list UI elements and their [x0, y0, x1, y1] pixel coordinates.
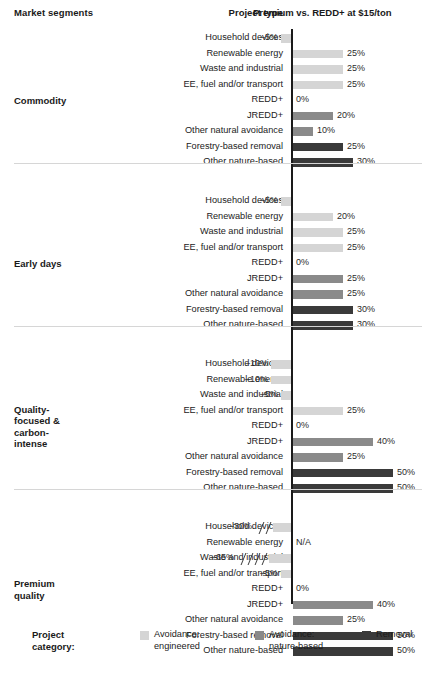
- bar-positive: [293, 213, 333, 222]
- legend-label-line1: Removal: [376, 629, 412, 641]
- bar-positive: [293, 453, 343, 462]
- chart-row: Forestry-based removal25%: [0, 140, 435, 156]
- bar-container: 25%: [291, 404, 435, 420]
- chart-row: EE, fuel and/or transport25%: [0, 404, 435, 420]
- project-type-label: Other natural avoidance: [120, 451, 283, 461]
- bar-container: 20%: [291, 210, 435, 226]
- legend-label: Removal: [376, 629, 412, 641]
- legend-title-line1: Project: [32, 629, 75, 641]
- market-segment-section: Early daysHousehold devices–5%Renewable …: [0, 194, 435, 334]
- chart-row: Other natural avoidance25%: [0, 287, 435, 303]
- project-type-label: Forestry-based removal: [120, 141, 283, 151]
- market-segment-section: Quality-focused &carbon-intenseHousehold…: [0, 357, 435, 497]
- bar-positive: [293, 143, 343, 152]
- project-type-label: Other nature-based: [120, 482, 283, 492]
- bar-negative: [281, 197, 291, 206]
- value-label: 25%: [347, 48, 365, 58]
- bar-positive: [293, 244, 343, 253]
- project-type-label: JREDD+: [120, 110, 283, 120]
- bar-negative: [281, 570, 291, 579]
- legend-title: Project category:: [32, 629, 75, 652]
- chart-row: Household devices–5%: [0, 194, 435, 210]
- chart-row: EE, fuel and/or transport–5%: [0, 567, 435, 583]
- axis-break-slash: [259, 522, 264, 534]
- bar-container: 25%: [291, 272, 435, 288]
- header-premium: Premium vs. REDD+ at $15/ton: [253, 7, 392, 18]
- value-label: 20%: [337, 211, 355, 221]
- project-type-label: EE, fuel and/or transport: [120, 405, 283, 415]
- project-type-label: Renewable energy: [120, 211, 283, 221]
- value-label: 50%: [397, 482, 415, 492]
- value-label: –5%: [120, 195, 278, 205]
- project-type-label: Other natural avoidance: [120, 614, 283, 624]
- bar-positive: [293, 228, 343, 237]
- value-label: 25%: [347, 79, 365, 89]
- value-label: –5%: [120, 32, 278, 42]
- value-label: –10%: [120, 358, 268, 368]
- bar-container: 25%: [291, 78, 435, 94]
- premium-vs-redd-chart: Market segments Project type Premium vs.…: [0, 0, 435, 678]
- value-label: 30%: [357, 304, 375, 314]
- value-label: 10%: [317, 125, 335, 135]
- project-type-label: REDD+: [120, 420, 283, 430]
- project-type-label: EE, fuel and/or transport: [120, 242, 283, 252]
- section-divider: [14, 326, 422, 327]
- chart-row: Household devices–30%: [0, 520, 435, 536]
- project-type-label: Other natural avoidance: [120, 288, 283, 298]
- legend-label-line1: Avoidance:: [269, 629, 323, 641]
- legend-label-line1: Avoidance:: [154, 629, 200, 641]
- bar-container: 40%: [291, 598, 435, 614]
- bar-container: 25%: [291, 47, 435, 63]
- project-type-label: REDD+: [120, 583, 283, 593]
- bar-positive: [293, 290, 343, 299]
- chart-row: REDD+0%: [0, 256, 435, 272]
- value-label: –5%: [120, 568, 278, 578]
- value-label: 25%: [347, 405, 365, 415]
- project-type-label: Other nature-based: [120, 319, 283, 329]
- value-label: 25%: [347, 451, 365, 461]
- axis-break-slash: [266, 522, 271, 534]
- project-type-label: Other natural avoidance: [120, 125, 283, 135]
- bar-container: 10%: [291, 124, 435, 140]
- value-label-zero: 0%: [296, 257, 309, 267]
- value-label: 25%: [347, 141, 365, 151]
- value-label-zero: 0%: [296, 583, 309, 593]
- chart-row: Waste and industrial25%: [0, 225, 435, 241]
- bar-negative: [281, 391, 291, 400]
- chart-row: Waste and industrial–5%: [0, 388, 435, 404]
- value-label: –10%: [120, 374, 268, 384]
- legend: Project category: Avoidance:engineeredAv…: [0, 625, 435, 665]
- chart-row: Renewable energy20%: [0, 210, 435, 226]
- legend-swatch: [362, 631, 371, 640]
- chart-row: Other natural avoidance10%: [0, 124, 435, 140]
- value-label: 30%: [357, 319, 375, 329]
- bar-container: 50%: [291, 466, 435, 482]
- project-type-label: EE, fuel and/or transport: [120, 79, 283, 89]
- bar-positive: [293, 127, 313, 136]
- value-label: 50%: [397, 467, 415, 477]
- bar-positive: [293, 438, 373, 447]
- legend-title-line2: category:: [32, 641, 75, 653]
- project-type-label: Forestry-based removal: [120, 467, 283, 477]
- bar-positive: [293, 407, 343, 416]
- project-type-label: JREDD+: [120, 599, 283, 609]
- chart-row: REDD+0%: [0, 93, 435, 109]
- chart-row: Renewable energyN/A: [0, 536, 435, 552]
- bar-positive: [293, 469, 393, 478]
- chart-row: Forestry-based removal50%: [0, 466, 435, 482]
- chart-row: Other natural avoidance25%: [0, 450, 435, 466]
- project-type-label: Forestry-based removal: [120, 304, 283, 314]
- bar-positive: [293, 616, 343, 625]
- bar-positive: [293, 601, 373, 610]
- chart-row: Waste and industrial25%: [0, 62, 435, 78]
- project-type-label: REDD+: [120, 257, 283, 267]
- value-label: 40%: [377, 436, 395, 446]
- bar-negative: [269, 554, 291, 563]
- project-type-label: Renewable energy: [120, 537, 283, 547]
- value-label: –30%: [120, 521, 252, 531]
- bar-positive: [293, 306, 353, 315]
- legend-swatch: [255, 631, 264, 640]
- project-type-label: JREDD+: [120, 436, 283, 446]
- bar-container: 30%: [291, 303, 435, 319]
- legend-swatch: [140, 631, 149, 640]
